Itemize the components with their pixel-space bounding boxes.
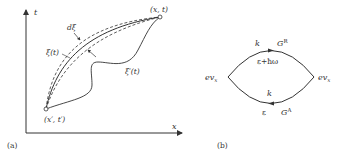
right-vertex-label: evx (318, 73, 331, 83)
top-green-label: GR (277, 38, 288, 48)
start-point-label: (x′, t′) (44, 115, 65, 124)
bottom-momentum-label: k (267, 89, 272, 98)
panel-b: k GR ε+ħω evx evx k ε GA (b) (205, 38, 331, 150)
panel-a: t x dξ ξ(t) ξ′(t) (x, t) (x′, t′) (a) (7, 5, 182, 150)
x-axis-label: x (172, 122, 177, 131)
bottom-arrow-icon (268, 102, 274, 106)
end-point-marker (158, 15, 162, 19)
top-energy-label: ε+ħω (257, 57, 278, 66)
width-arrow-inner (88, 50, 96, 57)
classical-path (46, 17, 160, 109)
bottom-energy-label: ε (262, 108, 266, 117)
panel-b-label: (b) (217, 141, 228, 150)
classical-path-label: ξ(t) (46, 48, 59, 57)
left-vertex-label: evx (205, 73, 218, 83)
t-axis-label: t (34, 8, 38, 17)
fluctuating-path (46, 17, 160, 109)
top-momentum-label: k (255, 39, 260, 48)
end-point-label: (x, t) (150, 5, 168, 14)
top-arrow-icon (268, 49, 274, 53)
tube-inner-path (46, 17, 160, 109)
figure: t x dξ ξ(t) ξ′(t) (x, t) (x′, t′) (a) k … (0, 0, 344, 160)
width-arrow-outer (74, 33, 80, 40)
tube-outer-path (46, 17, 160, 109)
bottom-green-label: GA (281, 107, 292, 117)
width-label: dξ (67, 23, 77, 32)
panel-a-label: (a) (7, 141, 17, 150)
start-point-marker (44, 107, 48, 111)
fluctuating-path-label: ξ′(t) (125, 67, 140, 76)
